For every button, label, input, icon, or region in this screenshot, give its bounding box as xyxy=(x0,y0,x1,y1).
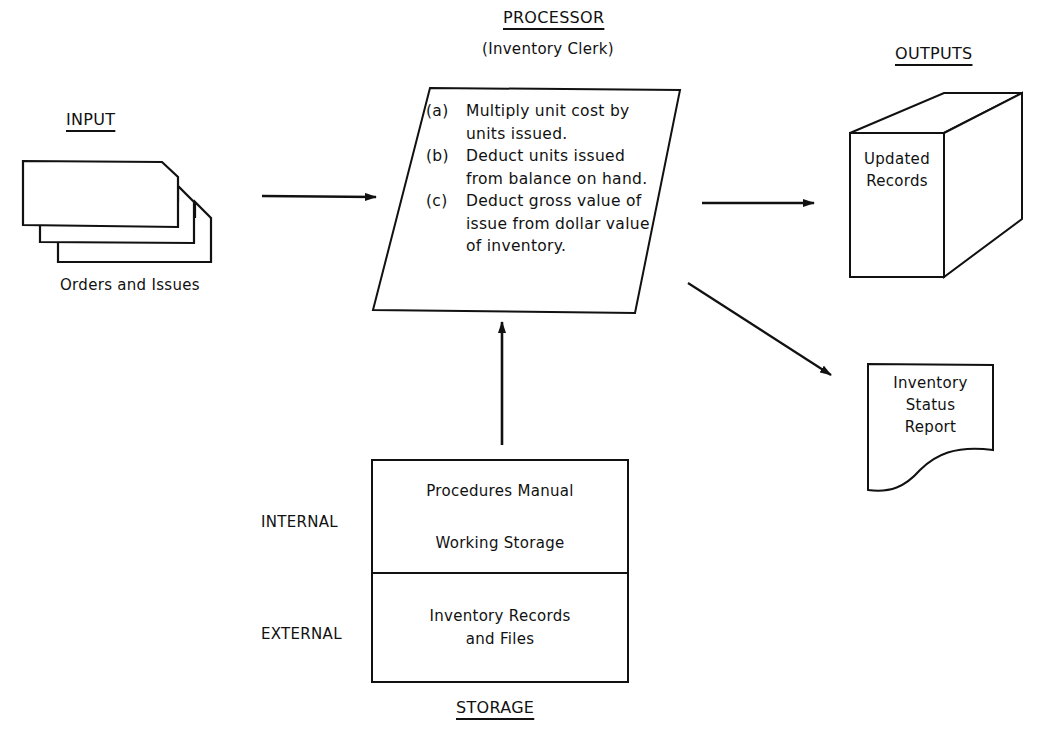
processor-step-a: (a) Multiply unit cost by units issued. xyxy=(426,100,656,145)
updated-records-label: Updated Records xyxy=(850,148,944,192)
status-report-line3: Report xyxy=(868,416,993,438)
outputs-heading: OUTPUTS xyxy=(895,44,972,63)
step-text: Deduct gross value of issue from dollar … xyxy=(466,190,656,258)
arrow-input-to-processor xyxy=(262,196,376,197)
storage-internal-line2: Working Storage xyxy=(372,534,628,552)
storage-external-text: Inventory Records and Files xyxy=(372,605,628,651)
storage-external-line1: Inventory Records xyxy=(372,605,628,628)
storage-external-line2: and Files xyxy=(372,628,628,651)
processor-step-b: (b) Deduct units issued from balance on … xyxy=(426,145,656,190)
processor-step-c: (c) Deduct gross value of issue from dol… xyxy=(426,190,656,258)
storage-internal-line1: Procedures Manual xyxy=(372,482,628,500)
updated-records-line2: Records xyxy=(850,170,944,192)
updated-records-line1: Updated xyxy=(850,148,944,170)
status-report-line2: Status xyxy=(868,394,993,416)
input-heading: INPUT xyxy=(66,110,115,129)
step-text: Deduct units issued from balance on hand… xyxy=(466,145,656,190)
arrow-processor-to-report xyxy=(688,283,831,375)
step-tag: (c) xyxy=(426,190,466,258)
processor-heading: PROCESSOR xyxy=(503,8,604,27)
storage-heading: STORAGE xyxy=(456,698,534,717)
processor-steps: (a) Multiply unit cost by units issued. … xyxy=(426,100,656,258)
input-documents-icon xyxy=(23,161,211,262)
processor-subheading: (Inventory Clerk) xyxy=(482,40,614,58)
status-report-label: Inventory Status Report xyxy=(868,372,993,438)
step-text: Multiply unit cost by units issued. xyxy=(466,100,656,145)
internal-label: INTERNAL xyxy=(261,513,338,531)
status-report-line1: Inventory xyxy=(868,372,993,394)
step-tag: (a) xyxy=(426,100,466,145)
input-document-label: Orders and Issues xyxy=(60,276,200,294)
step-tag: (b) xyxy=(426,145,466,190)
external-label: EXTERNAL xyxy=(261,625,342,643)
